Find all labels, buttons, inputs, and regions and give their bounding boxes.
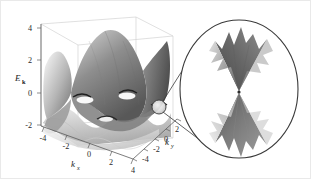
kx-axis-label: k (71, 159, 76, 169)
y-tick-3: -2 (153, 145, 160, 154)
x-tick-3: 2 (109, 158, 113, 167)
y-tick-1: 2 (175, 125, 179, 134)
energy-axis-subscript: k (22, 78, 26, 85)
energy-axis-label: E (14, 73, 21, 83)
figure-container: 4 2 0 -2 -4 -2 0 2 4 4 2 0 (0, 0, 311, 179)
z-tick-0: 4 (28, 24, 32, 33)
x-tick-0: -4 (40, 134, 47, 143)
dirac-cone-inset (180, 20, 298, 158)
y-tick-4: -4 (142, 155, 149, 164)
z-tick-1: 2 (28, 56, 32, 65)
z-tick-2: 0 (28, 89, 32, 98)
dirac-point-marker (152, 100, 166, 114)
x-tick-4: 4 (131, 166, 135, 175)
band-structure-plot: 4 2 0 -2 -4 -2 0 2 4 4 2 0 (1, 1, 311, 179)
kx-axis-subscript: x (76, 164, 80, 171)
ky-axis-subscript: y (170, 142, 174, 149)
conduction-band-surface (43, 30, 170, 134)
z-axis-ticks: 4 2 0 -2 (25, 24, 41, 130)
x-tick-2: 0 (87, 150, 91, 159)
x-tick-1: -2 (63, 142, 70, 151)
z-tick-3: -2 (25, 121, 32, 130)
